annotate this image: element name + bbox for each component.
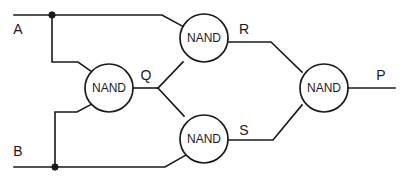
junction-dot-input-a [49,12,55,18]
nand-gate-r[interactable]: NAND [180,14,228,62]
wire-input-a-to-gate-q [52,15,92,72]
nand-gate-q[interactable]: NAND [85,64,133,112]
logic-circuit-svg: NAND NAND NAND NAND A B Q [0,0,405,187]
nand-gate-p[interactable]: NAND [300,64,348,112]
wire-input-b-to-gate-q [55,104,92,167]
wire-q-to-gate-s [158,88,184,116]
gate-group: NAND NAND NAND NAND [85,14,348,163]
nand-gate-q-label: NAND [92,81,126,95]
junction-dot-input-b [52,164,58,170]
wire-r-to-gate-p [228,42,302,72]
wire-q-to-gate-r [158,62,183,88]
signal-label-s: S [239,122,248,138]
nand-gate-p-label: NAND [307,81,341,95]
junction-group [49,12,58,170]
nand-gate-r-label: NAND [187,31,221,45]
wire-input-a-to-gate-r [14,15,184,27]
signal-label-b: B [13,143,22,159]
circuit-diagram-canvas: NAND NAND NAND NAND A B Q [0,0,405,187]
signal-label-p: P [376,67,385,83]
signal-label-a: A [13,21,23,37]
nand-gate-s[interactable]: NAND [180,115,228,163]
signal-label-r: R [239,21,249,37]
signal-label-q: Q [141,67,152,83]
wire-input-b-to-gate-s [14,155,186,167]
nand-gate-s-label: NAND [187,132,221,146]
